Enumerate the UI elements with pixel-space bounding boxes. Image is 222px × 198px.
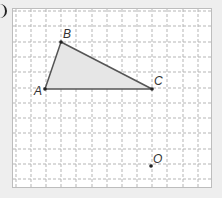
label-o: O xyxy=(153,152,162,166)
dashed-grid xyxy=(13,9,211,187)
point-a xyxy=(43,87,47,91)
label-b: B xyxy=(63,27,71,41)
geometry-diagram: A B C O xyxy=(0,0,222,198)
label-a: A xyxy=(33,84,42,98)
label-c: C xyxy=(154,74,163,88)
triangle-abc xyxy=(45,42,152,89)
